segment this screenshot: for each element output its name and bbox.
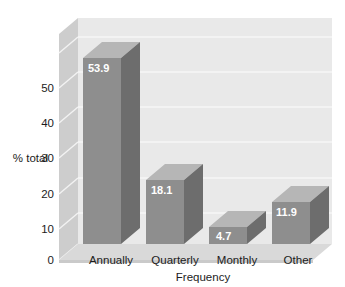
chart-canvas: 53.9 18.1 4.7 11.9 50 40 30 20	[0, 0, 345, 287]
bar-value-monthly: 4.7	[216, 230, 231, 242]
bar-side-annually	[121, 42, 140, 244]
x-category-label-monthly: Monthly	[217, 254, 258, 266]
y-axis-tick-labels: 50 40 30 20 10 0	[41, 82, 54, 266]
bar-value-other: 11.9	[276, 206, 297, 218]
x-axis-title: Frequency	[176, 271, 231, 283]
x-category-label-annually: Annually	[89, 254, 133, 266]
plot-left-wall	[59, 18, 78, 260]
x-category-label-quarterly: Quarterly	[151, 254, 199, 266]
y-tick-label-0: 0	[48, 254, 54, 266]
y-tick-label-50: 50	[41, 82, 54, 94]
y-tick-label-10: 10	[41, 223, 54, 235]
y-tick-label-40: 40	[41, 117, 54, 129]
bar-front-annually	[83, 58, 121, 244]
bar-value-annually: 53.9	[88, 62, 109, 74]
bar-value-quarterly: 18.1	[151, 184, 172, 196]
x-category-label-other: Other	[284, 254, 313, 266]
y-tick-label-20: 20	[41, 188, 54, 200]
bar-group-annually[interactable]: 53.9	[83, 42, 140, 244]
bar-group-quarterly[interactable]: 18.1	[146, 164, 203, 244]
y-axis-title: % total	[13, 152, 48, 164]
bar-chart: 53.9 18.1 4.7 11.9 50 40 30 20	[0, 0, 345, 287]
